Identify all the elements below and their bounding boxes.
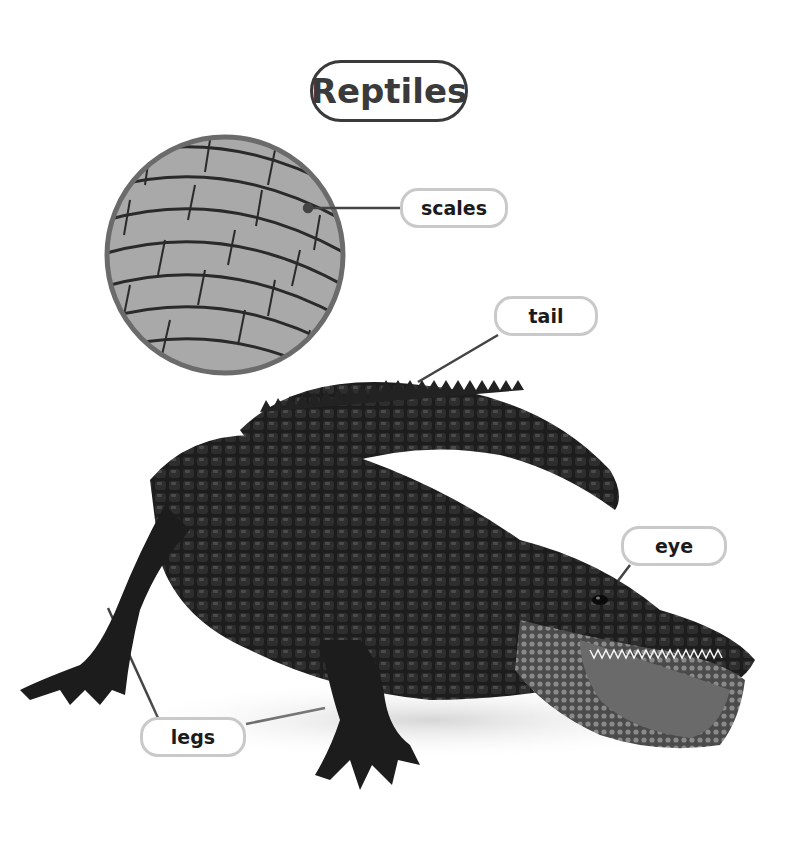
label-tail: tail — [494, 296, 598, 336]
diagram-illustration — [0, 0, 804, 844]
label-legs: legs — [140, 717, 246, 757]
label-eye: eye — [621, 526, 727, 566]
label-scales: scales — [400, 188, 508, 228]
page-title: Reptiles — [310, 60, 468, 122]
scales-closeup — [100, 137, 360, 424]
alligator-image — [20, 380, 755, 790]
